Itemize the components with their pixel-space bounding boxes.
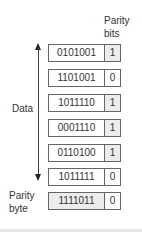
parity-byte-bits-cell: 1111011 [49, 193, 105, 209]
data-row-4: 0001110 1 [48, 119, 121, 137]
data-bits-cell: 1101001 [49, 70, 105, 86]
data-row-3: 1011110 1 [48, 94, 121, 112]
data-bits-cell: 0001110 [49, 120, 105, 136]
parity-bits-header-line2: bits [104, 27, 130, 40]
data-label: Data [12, 103, 33, 115]
parity-bit-cell: 0 [105, 169, 120, 185]
data-bits-cell: 0101001 [49, 45, 105, 61]
parity-byte-label-line1: Parity [9, 189, 35, 202]
parity-bits-header: Parity bits [104, 14, 130, 40]
data-row-2: 1101001 0 [48, 69, 121, 87]
data-row-6: 1011111 0 [48, 168, 121, 186]
bottom-divider [0, 229, 142, 232]
parity-byte-label: Parity byte [9, 189, 35, 215]
data-range-arrow-line [38, 48, 39, 176]
data-row-1: 0101001 1 [48, 44, 121, 62]
parity-byte-row: 1111011 0 [48, 192, 121, 210]
parity-bit-cell: 1 [105, 95, 120, 111]
data-bits-cell: 0110100 [49, 145, 105, 161]
parity-byte-parity-cell: 0 [105, 193, 120, 209]
data-bits-cell: 1011111 [49, 169, 105, 185]
parity-bits-header-line1: Parity [104, 14, 130, 27]
data-bits-cell: 1011110 [49, 95, 105, 111]
parity-bit-cell: 1 [105, 145, 120, 161]
parity-byte-label-line2: byte [9, 202, 35, 215]
parity-bit-cell: 1 [105, 45, 120, 61]
parity-bit-cell: 1 [105, 120, 120, 136]
data-row-5: 0110100 1 [48, 144, 121, 162]
arrow-down-icon [35, 174, 41, 181]
parity-bit-cell: 0 [105, 70, 120, 86]
